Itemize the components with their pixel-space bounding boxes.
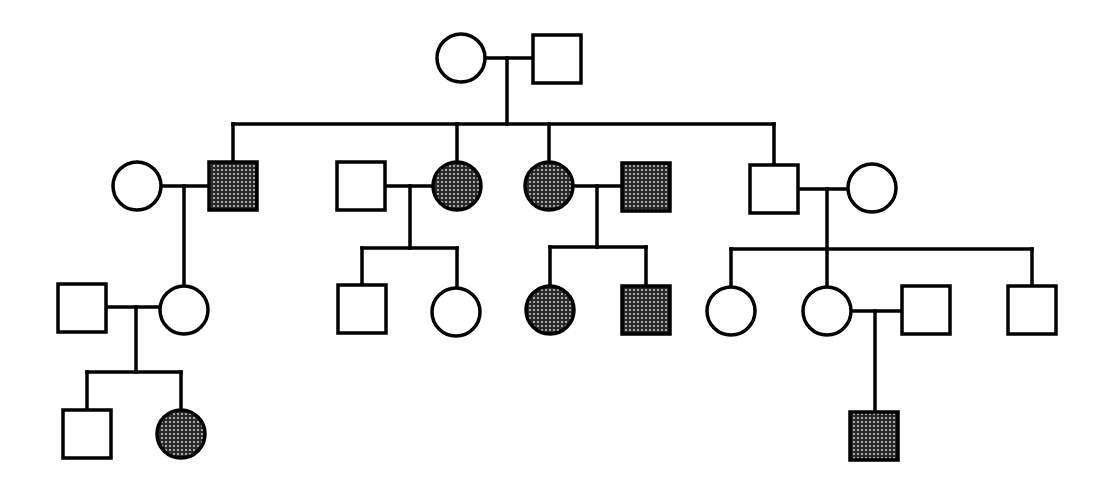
unaffected-female-ii-1	[113, 162, 161, 210]
affected-male-iv-3	[850, 412, 898, 460]
affected-female-iv-2	[157, 410, 205, 458]
affected-male-ii-6	[622, 163, 670, 211]
unaffected-male-iii-10	[1008, 286, 1056, 334]
unaffected-female-iii-7	[707, 287, 755, 335]
unaffected-male-iii-9	[902, 286, 950, 334]
unaffected-female-iii-4	[432, 288, 480, 336]
unaffected-female-iii-2	[160, 286, 208, 334]
unaffected-male-ii-3	[337, 162, 385, 210]
affected-male-iii-6	[622, 286, 670, 334]
affected-female-iii-5	[526, 286, 574, 334]
unaffected-female-i-1	[437, 34, 485, 82]
unaffected-female-ii-8	[848, 164, 896, 212]
unaffected-male-iii-1	[58, 284, 106, 332]
pedigree-chart	[0, 0, 1107, 493]
pedigree-svg	[0, 0, 1107, 493]
affected-male-ii-2	[209, 162, 257, 210]
relationship-lines	[87, 58, 1032, 411]
unaffected-male-i-2	[533, 35, 581, 83]
unaffected-male-iv-1	[63, 410, 111, 458]
affected-female-ii-5	[525, 162, 573, 210]
affected-female-ii-4	[433, 162, 481, 210]
unaffected-male-ii-7	[750, 165, 798, 213]
unaffected-female-iii-8	[803, 287, 851, 335]
unaffected-male-iii-3	[338, 285, 386, 333]
